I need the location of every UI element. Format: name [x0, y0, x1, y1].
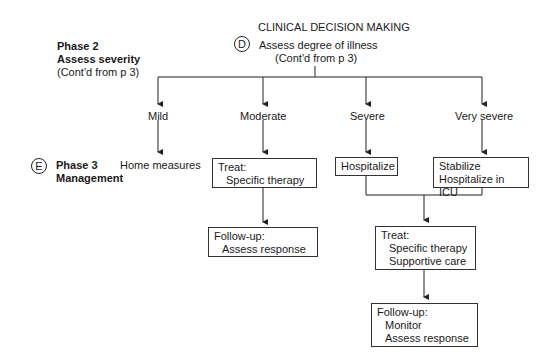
root-label: Assess degree of illness [259, 39, 378, 52]
phase3-heading: Phase 3 [56, 159, 98, 172]
severe-hospitalize-box: Hospitalize [335, 157, 398, 176]
treat-title: Treat: [218, 161, 311, 174]
icu-label: Hospitalize in ICU [439, 173, 523, 199]
stabilize-label: Stabilize [439, 160, 523, 173]
hospitalize-label: Hospitalize [341, 160, 392, 173]
followup-item: Assess response [377, 332, 472, 345]
phase2-note: (Cont'd from p 3) [57, 66, 139, 79]
step-e-marker: E [31, 158, 47, 174]
moderate-treat-box: Treat: Specific therapy [212, 158, 317, 188]
treat-item: Supportive care [381, 255, 470, 268]
severity-moderate: Moderate [240, 110, 286, 123]
severity-mild: Mild [148, 110, 168, 123]
followup-item: Monitor [377, 319, 472, 332]
followup-title: Follow-up: [377, 306, 472, 319]
phase3-subheading: Management [56, 172, 123, 185]
step-d-marker: D [234, 36, 250, 52]
treat-title: Treat: [381, 229, 470, 242]
treat-item: Specific therapy [381, 242, 470, 255]
treat-item: Specific therapy [218, 174, 311, 187]
combined-followup-box: Follow-up: Monitor Assess response [371, 303, 478, 347]
mild-action: Home measures [120, 159, 201, 172]
severity-severe: Severe [350, 110, 385, 123]
followup-item: Assess response [214, 243, 312, 256]
severity-very-severe: Very severe [455, 110, 513, 123]
very-severe-box: Stabilize Hospitalize in ICU [433, 157, 529, 188]
phase2-subheading: Assess severity [57, 53, 140, 66]
followup-title: Follow-up: [214, 230, 312, 243]
combined-treat-box: Treat: Specific therapy Supportive care [375, 226, 476, 270]
phase2-heading: Phase 2 [57, 40, 99, 53]
moderate-followup-box: Follow-up: Assess response [208, 227, 318, 257]
diagram-title: CLINICAL DECISION MAKING [258, 21, 410, 34]
root-note: (Cont'd from p 3) [275, 52, 357, 65]
